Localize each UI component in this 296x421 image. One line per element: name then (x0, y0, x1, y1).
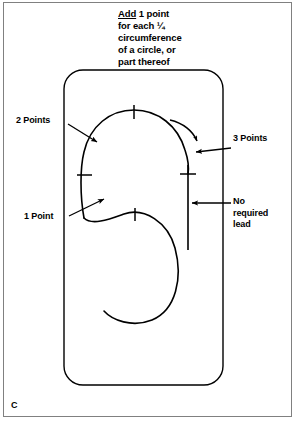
scoring-note-line1-rest: 1 point (136, 8, 169, 19)
lower-loop-path (84, 212, 178, 323)
scoring-note-line3: circumference (118, 32, 182, 43)
scoring-note-line2: for each ¼ (118, 20, 165, 31)
scoring-note-line5: part thereof (118, 56, 170, 67)
arrow-left-three-points-icon (196, 148, 231, 152)
figure-panel: Add 1 pointfor each ¼circumferenceof a c… (0, 0, 296, 421)
arrow-up-right-icon (69, 199, 104, 216)
curved-arrow-clockwise-icon (170, 120, 197, 141)
label-two-points: 2 Points (16, 115, 50, 126)
label-no-required-lead: No required lead (233, 196, 268, 231)
panel-letter: C (11, 400, 17, 411)
label-three-points: 3 Points (233, 133, 267, 144)
aerobatic-box-outline (64, 70, 223, 385)
label-one-point: 1 Point (24, 211, 53, 222)
scoring-note: Add 1 pointfor each ¼circumferenceof a c… (118, 8, 210, 67)
scoring-note-underlined-word: Add (118, 8, 136, 19)
scoring-note-line4: of a circle, or (118, 44, 176, 55)
